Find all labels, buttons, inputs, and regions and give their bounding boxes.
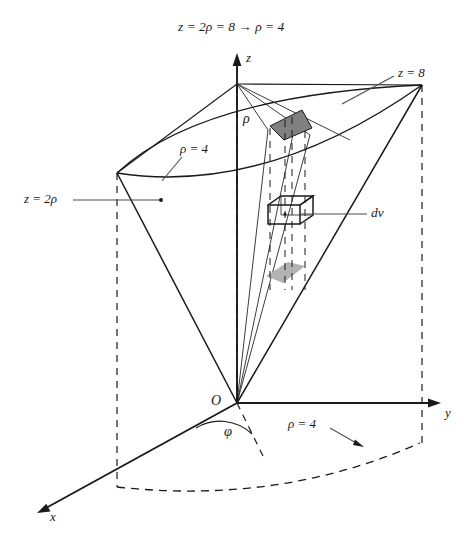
top-disk-radial-a [237, 84, 268, 130]
cone-generator-a [237, 130, 268, 403]
figure-root: z = 2ρ = 8 → ρ = 4 z y x O z = 8 z = 2ρ … [0, 0, 474, 544]
x-axis-label: x [50, 510, 56, 523]
dashed-construction-lines [117, 85, 422, 487]
diagram-canvas [0, 0, 474, 544]
cone-edge-left [117, 173, 237, 403]
cone-surface-label: z = 2ρ [24, 192, 57, 205]
radius-top-label: ρ = 4 [180, 142, 208, 155]
dash-base-ray [237, 403, 264, 458]
cone-edge-right [237, 85, 422, 403]
z-axis-label: z [246, 51, 251, 64]
z-axis-arrowhead [233, 53, 242, 66]
axis-group [37, 53, 441, 513]
radius-base-label: ρ = 4 [288, 417, 316, 430]
dv-box-right-face [300, 196, 313, 224]
top-disk-radius-left [117, 84, 237, 173]
plane-top-label: z = 8 [398, 66, 425, 79]
x-axis [46, 403, 237, 508]
dv-box-center-dot [284, 213, 287, 216]
shaded-patch-dark [270, 110, 312, 140]
origin-label: O [211, 394, 221, 408]
y-axis-label: y [445, 406, 451, 419]
dv-box [268, 196, 313, 224]
x-axis-arrowhead [37, 504, 51, 513]
volume-element-label: dv [371, 206, 384, 220]
leader-z2rho-dot [159, 198, 163, 202]
top-disk-radius-right [237, 84, 422, 85]
leader-rho4-base-arrowhead [353, 440, 364, 448]
base-arc-dashed [117, 443, 420, 491]
slant-rho-label: ρ [243, 112, 250, 126]
leader-rho4-base [330, 428, 358, 444]
figure-title: z = 2ρ = 8 → ρ = 4 [178, 20, 284, 34]
azimuth-angle-label: φ [224, 424, 232, 439]
y-axis-arrowhead [428, 399, 441, 408]
